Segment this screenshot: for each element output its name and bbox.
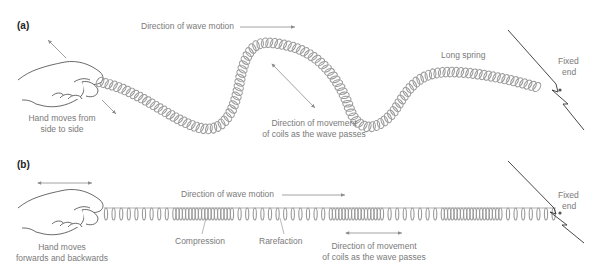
coil-movement-label-a-line2: of coils as the wave passes <box>254 129 374 140</box>
coil-movement-label-a-line1: Direction of movement <box>264 118 364 129</box>
coil-movement-label-b-line1: Direction of movement <box>324 241 424 252</box>
spring-label: Long spring <box>441 50 485 61</box>
fixed-end-label-b-line2: end <box>562 201 576 212</box>
hand-label-a-line2: side to side <box>20 124 104 135</box>
fixed-end-label-b-line1: Fixed <box>558 190 579 201</box>
hand-icon-a <box>18 61 103 106</box>
hand-label-b-line2: forwards and backwards <box>12 253 112 264</box>
hand-label-b-line1: Hand moves <box>12 242 112 253</box>
hand-icon-b <box>18 189 103 234</box>
fixed-end-label-a-line1: Fixed <box>558 56 579 67</box>
compression-label: Compression <box>175 236 225 247</box>
fixed-end-label-a-line2: end <box>562 67 576 78</box>
spring-coils-b <box>104 208 555 220</box>
hand-label-a-line1: Hand moves from <box>20 113 104 124</box>
hand-motion-arrow-a-down <box>102 100 116 114</box>
rarefaction-pointer <box>280 218 284 234</box>
fixed-end-point-a <box>558 88 561 91</box>
rarefaction-label: Rarefaction <box>259 236 302 247</box>
hand-motion-arrow-a-up <box>48 40 66 58</box>
wave-direction-label-a: Direction of wave motion <box>141 21 234 32</box>
wave-direction-label-b: Direction of wave motion <box>181 189 274 200</box>
panel-b-graphics <box>18 161 584 243</box>
coil-movement-label-b-line2: of coils as the wave passes <box>314 252 434 263</box>
fixed-end-wall-a <box>508 30 584 130</box>
coil-movement-arrow-a <box>272 64 315 108</box>
